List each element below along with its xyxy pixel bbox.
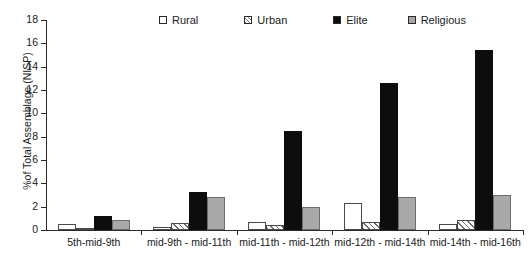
bar-rural[interactable] [344, 203, 362, 230]
category-label: 5th-mid-9th [46, 236, 141, 248]
x-tick [332, 230, 333, 235]
bar-group [237, 20, 332, 230]
bar-religious[interactable] [398, 197, 416, 230]
bar-urban[interactable] [457, 220, 475, 231]
bar-rural[interactable] [248, 222, 266, 230]
bar-urban[interactable] [171, 223, 189, 230]
y-tick-label: 14 [26, 60, 38, 72]
y-tick-label: 4 [32, 176, 38, 188]
bar-religious[interactable] [112, 220, 130, 231]
bar-urban[interactable] [362, 222, 380, 230]
bar-elite[interactable] [284, 131, 302, 230]
bar-religious[interactable] [207, 197, 225, 230]
y-tick-label: 8 [32, 130, 38, 142]
x-tick [237, 230, 238, 235]
y-tick-label: 18 [26, 13, 38, 25]
bar-religious[interactable] [302, 207, 320, 230]
bar-rural[interactable] [439, 224, 457, 230]
x-axis-line [46, 230, 524, 231]
bar-chart: Rural Urban Elite Religious %of Total As… [0, 0, 531, 258]
bar-elite[interactable] [380, 83, 398, 230]
bar-elite[interactable] [475, 50, 493, 230]
x-tick [428, 230, 429, 235]
bar-rural[interactable] [58, 224, 76, 230]
y-tick-label: 2 [32, 200, 38, 212]
bar-group [428, 20, 523, 230]
category-label: mid-12th - mid-14th [332, 236, 427, 248]
category-label: mid-9th - mid-11th [141, 236, 236, 248]
y-tick-label: 0 [32, 223, 38, 235]
category-label: mid-14th - mid-16th [428, 236, 523, 248]
bar-elite[interactable] [94, 216, 112, 230]
plot-area: 024681012141618 [46, 20, 523, 230]
bar-elite[interactable] [189, 192, 207, 231]
y-tick-label: 6 [32, 153, 38, 165]
bar-rural[interactable] [153, 227, 171, 231]
y-tick-label: 12 [26, 83, 38, 95]
bar-religious[interactable] [493, 195, 511, 230]
y-tick-label: 10 [26, 106, 38, 118]
category-label: mid-11th - mid-12th [237, 236, 332, 248]
x-tick [523, 230, 524, 235]
y-tick-label: 16 [26, 36, 38, 48]
bar-group [46, 20, 141, 230]
bar-urban[interactable] [266, 225, 284, 230]
bar-group [332, 20, 427, 230]
bar-urban[interactable] [76, 228, 94, 230]
y-tick: 0 [41, 230, 46, 231]
bar-group [141, 20, 236, 230]
x-tick [141, 230, 142, 235]
